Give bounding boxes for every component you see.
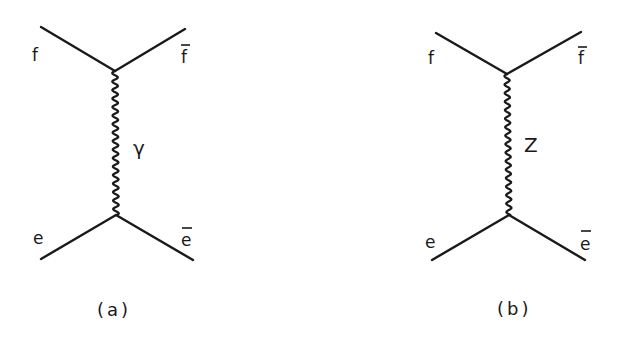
caption-a: (a) — [97, 299, 131, 320]
label-photon-gamma: γ — [133, 136, 145, 160]
caption-b: (b) — [497, 298, 531, 319]
photon-propagator-wavy-line — [112, 71, 119, 215]
label-f-a: f — [32, 45, 39, 65]
z-boson-propagator-wavy-line — [504, 74, 511, 215]
positron-line-b — [509, 215, 585, 260]
label-f-b: f — [428, 48, 435, 68]
fermion-line-fbar-b — [507, 32, 581, 74]
fermion-line-f-incoming-b — [436, 33, 507, 74]
label-e-b: e — [425, 232, 435, 252]
label-e-a: e — [33, 228, 43, 248]
fermion-line-f-incoming-a — [41, 27, 115, 71]
fermion-line-fbar-a — [115, 29, 185, 71]
label-fbar-a: f — [181, 47, 188, 67]
electron-line-b — [432, 215, 509, 260]
electron-line-a — [41, 215, 116, 259]
label-ebar-a: e — [181, 230, 191, 250]
feynman-diagrams-figure: f f γ e e (a) f f Z e e (b) — [0, 0, 619, 340]
diagram-b: f f Z e e (b) — [425, 32, 591, 319]
diagram-a: f f γ e e (a) — [32, 27, 193, 320]
label-z-boson: Z — [524, 133, 538, 157]
label-ebar-b: e — [580, 234, 590, 254]
label-fbar-b: f — [578, 48, 585, 68]
